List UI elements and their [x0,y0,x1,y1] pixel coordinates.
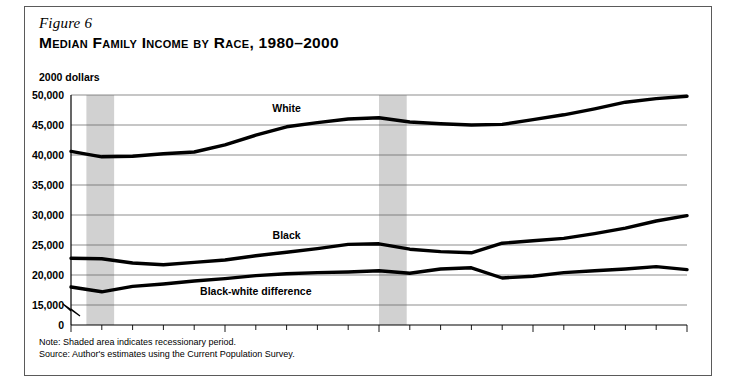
figure-notes: Note: Shaded area indicates recessionary… [39,337,295,360]
svg-text:1995: 1995 [521,335,545,337]
x-axis-ticks [71,325,687,332]
plot-area: 015,00020,00025,00030,00035,00040,00045,… [25,7,713,377]
svg-text:1990: 1990 [367,335,391,337]
series-label: Black-white difference [200,285,312,297]
svg-text:40,000: 40,000 [32,149,64,161]
note-line: Note: Shaded area indicates recessionary… [39,337,295,349]
svg-text:45,000: 45,000 [32,119,64,131]
source-line: Source: Author's estimates using the Cur… [39,349,295,361]
y-axis-tick-labels: 015,00020,00025,00030,00035,00040,00045,… [32,89,64,331]
svg-text:30,000: 30,000 [32,209,64,221]
svg-text:15,000: 15,000 [32,299,64,311]
series-annotations: WhiteBlackBlack-white difference [200,102,312,298]
svg-text:2000: 2000 [675,335,699,337]
svg-text:35,000: 35,000 [32,179,64,191]
svg-text:20,000: 20,000 [32,269,64,281]
axis-lines [63,95,687,325]
chart-svg: 015,00020,00025,00030,00035,00040,00045,… [25,7,713,337]
figure-panel: Figure 6 Median Family Income by Race, 1… [24,6,712,376]
svg-text:0: 0 [58,319,64,331]
series-label: White [272,102,301,114]
series-label: Black [273,229,301,241]
svg-text:50,000: 50,000 [32,89,64,101]
svg-text:25,000: 25,000 [32,239,64,251]
